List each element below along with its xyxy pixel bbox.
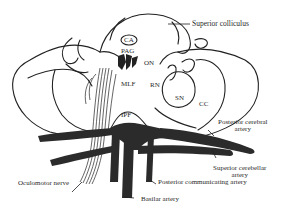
leader-lines bbox=[72, 24, 216, 198]
superior-colliculus-outline bbox=[100, 14, 190, 53]
label-sn: SN bbox=[175, 95, 184, 102]
label-basilar-artery: Basilar artery bbox=[141, 196, 179, 203]
label-mlf: MLF bbox=[121, 81, 135, 88]
superior-cerebellar-artery-left bbox=[50, 146, 114, 166]
label-superior-cerebellar-artery: Superior cerebellar artery bbox=[213, 165, 266, 179]
arteries bbox=[38, 123, 255, 198]
label-posterior-communicating-artery: Posterior communicating artery bbox=[158, 179, 247, 186]
label-pag: PAG bbox=[121, 48, 134, 55]
label-ipf: IPF bbox=[121, 112, 131, 119]
label-rn: RN bbox=[150, 82, 160, 89]
label-posterior-cerebral-artery: Posterior cerebral artery bbox=[218, 119, 268, 133]
posterior-communicating-artery bbox=[110, 132, 120, 182]
midbrain-outline-left bbox=[13, 45, 100, 135]
label-oculomotor-nerve: Oculomotor nerve bbox=[18, 180, 69, 187]
label-ca: CA bbox=[124, 37, 134, 44]
midbrain-diagram: Superior colliculus CA PAG ON MLF RN SN … bbox=[0, 0, 283, 215]
label-superior-colliculus: Superior colliculus bbox=[192, 20, 249, 28]
oculomotor-nucleus bbox=[118, 54, 138, 70]
oculomotor-fibres bbox=[80, 68, 116, 184]
label-cc: CC bbox=[199, 101, 208, 108]
posterior-cerebral-artery-left bbox=[38, 128, 118, 142]
label-on: ON bbox=[144, 60, 154, 67]
